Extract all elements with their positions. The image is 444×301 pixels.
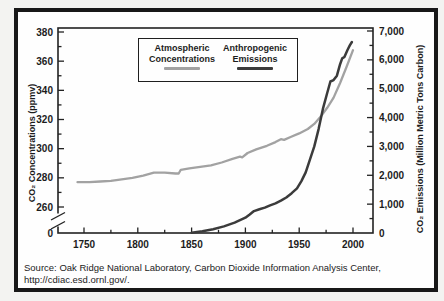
series-line-concentrations	[78, 50, 354, 182]
series-line-emissions	[192, 42, 352, 233]
plot-canvas	[0, 0, 444, 301]
plot-frame	[58, 28, 373, 233]
chart-figure: CO₂ Concentrations (ppmv) CO₂ Emissions …	[0, 0, 444, 301]
